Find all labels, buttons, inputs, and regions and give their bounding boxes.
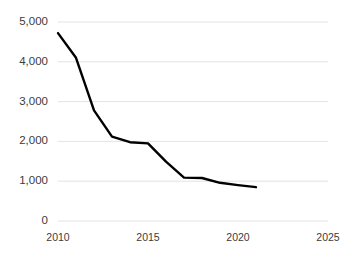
- gridlines: [58, 22, 328, 221]
- y-tick-label-2000: 2,000: [0, 135, 48, 147]
- x-tick-label-2010: 2010: [46, 232, 69, 243]
- x-tick-label-2015: 2015: [136, 232, 159, 243]
- y-tick-label-5000: 5,000: [0, 16, 48, 28]
- data-line-series-0: [58, 33, 256, 187]
- data-line-group: [58, 33, 256, 187]
- x-tick-label-2020: 2020: [226, 232, 249, 243]
- x-tick-label-2025: 2025: [316, 232, 339, 243]
- y-tick-label-1000: 1,000: [0, 175, 48, 187]
- y-tick-label-3000: 3,000: [0, 96, 48, 108]
- y-tick-label-0: 0: [0, 215, 48, 227]
- plot-area: [0, 0, 349, 257]
- y-tick-label-4000: 4,000: [0, 56, 48, 68]
- line-chart: 01,0002,0003,0004,0005,000 2010201520202…: [0, 0, 349, 257]
